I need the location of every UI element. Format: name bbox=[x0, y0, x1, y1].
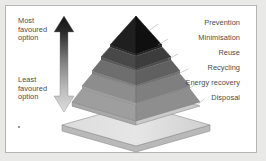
caption-line: option bbox=[18, 93, 56, 102]
waste-hierarchy-diagram: Most favoured option Least favoured opti… bbox=[0, 0, 266, 161]
stray-mark bbox=[18, 126, 20, 128]
tier-label-minimisation: Minimisation bbox=[198, 34, 240, 43]
arrow-caption-least-favoured: Least favoured option bbox=[18, 76, 56, 102]
tier-label-prevention: Prevention bbox=[204, 19, 240, 28]
caption-line: option bbox=[18, 34, 56, 43]
tier-label-disposal: Disposal bbox=[211, 94, 240, 103]
tier-label-recycling: Recycling bbox=[208, 64, 241, 73]
arrow-caption-most-favoured: Most favoured option bbox=[18, 17, 56, 43]
tier-label-reuse: Reuse bbox=[218, 49, 240, 58]
tier-label-energy-recovery: Energy recovery bbox=[185, 79, 240, 88]
preference-arrow bbox=[54, 16, 74, 112]
